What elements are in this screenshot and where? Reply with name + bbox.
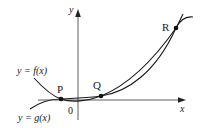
- point-r: [174, 26, 179, 31]
- point-p-label: P: [57, 83, 63, 95]
- curve-f-label: y = f(x): [16, 65, 48, 77]
- y-axis-label: y: [68, 4, 74, 15]
- y-axis-arrow: [75, 9, 81, 17]
- origin-label: 0: [68, 105, 73, 116]
- point-r-label: R: [162, 21, 170, 33]
- point-q: [99, 94, 104, 99]
- x-axis-arrow: [178, 97, 186, 103]
- point-p: [59, 97, 64, 102]
- function-diagram: P Q R y x 0 y = f(x) y = g(x): [0, 0, 207, 128]
- point-q-label: Q: [93, 79, 101, 91]
- x-axis-label: x: [179, 103, 185, 114]
- curve-g-label: y = g(x): [17, 112, 51, 124]
